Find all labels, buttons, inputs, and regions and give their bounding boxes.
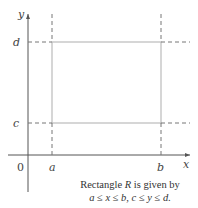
caption-inequality: a ≤ x ≤ b, c ≤ y ≤ d. xyxy=(89,192,171,203)
caption-line-2: a ≤ x ≤ b, c ≤ y ≤ d. xyxy=(60,191,198,204)
label-b: b xyxy=(157,161,164,174)
caption-line-1: Rectangle R is given by xyxy=(60,178,198,191)
caption-prefix: Rectangle xyxy=(80,179,125,190)
label-c: c xyxy=(13,117,19,130)
caption-suffix: is given by xyxy=(131,179,180,190)
rectangle-region-diagram: y x 0 a b d c xyxy=(0,0,198,208)
x-axis-label: x xyxy=(183,158,190,171)
caption: Rectangle R is given by a ≤ x ≤ b, c ≤ y… xyxy=(60,178,198,204)
label-d: d xyxy=(13,36,20,49)
origin-label: 0 xyxy=(17,161,24,174)
y-axis-label: y xyxy=(17,8,25,21)
rectangle-r xyxy=(52,42,161,123)
label-a: a xyxy=(49,161,56,174)
